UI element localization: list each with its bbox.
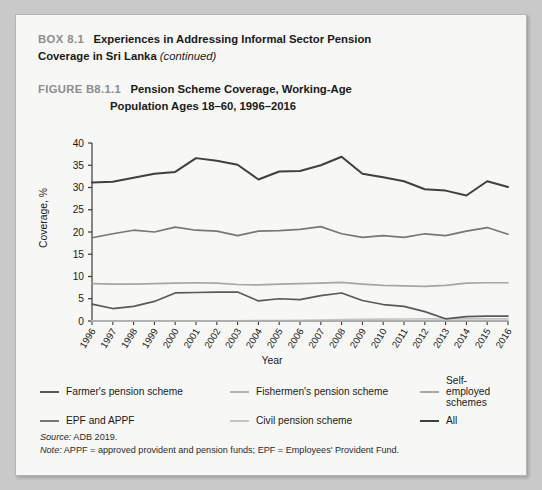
screenshot-page: BOX 8.1 Experiences in Addressing Inform… [0, 0, 542, 490]
legend-item-civil-pension-scheme: Civil pension scheme [230, 415, 420, 426]
figure-title-line1: Pension Scheme Coverage, Working-Age [130, 83, 351, 95]
legend-line-swatch-icon [230, 420, 249, 422]
x-axis-tick-label: 2003 [223, 326, 244, 350]
x-axis-tick-label: 1996 [77, 326, 98, 350]
x-axis-label: Year [26, 355, 518, 366]
series-line-self-employed-schemes [92, 282, 508, 286]
x-axis-tick-label: 2005 [264, 326, 285, 350]
legend-item-epf-and-appf: EPF and APPF [40, 415, 230, 426]
definition-note: Note: APPF = approved provident and pens… [40, 444, 500, 457]
box-heading: BOX 8.1 Experiences in Addressing Inform… [38, 31, 490, 64]
x-axis-tick-label: 2006 [285, 326, 306, 350]
x-axis-tick-label: 2011 [389, 326, 409, 349]
x-axis-tick-label: 1997 [98, 326, 119, 350]
x-axis-tick-label: 2000 [160, 326, 181, 350]
x-axis-tick-label: 2016 [493, 326, 514, 350]
y-axis-tick-label: 30 [73, 182, 85, 193]
x-axis-tick-label: 2015 [472, 326, 493, 350]
note-text: APPF = approved provident and pension fu… [62, 445, 399, 455]
legend-label: Civil pension scheme [256, 415, 352, 426]
legend-item-farmers-pension-scheme: Farmer's pension scheme [40, 375, 230, 408]
x-axis-tick-label: 2013 [431, 326, 452, 350]
legend-line-swatch-icon [420, 391, 439, 393]
x-axis-tick-label: 2008 [327, 326, 348, 350]
legend-label: Farmer's pension scheme [66, 386, 183, 397]
x-axis-tick-label: 2001 [181, 326, 202, 350]
source-note: Source: ADB 2019. [40, 431, 500, 444]
legend-label: EPF and APPF [66, 415, 135, 426]
x-axis-tick-label: 2014 [451, 326, 472, 350]
y-axis-tick-label: 20 [73, 227, 85, 238]
chart-container: Coverage, % 0510152025303540199619971998… [26, 123, 518, 368]
x-axis-tick-label: 2007 [306, 326, 327, 350]
legend-label: All [446, 415, 457, 426]
series-line-all [92, 157, 508, 196]
x-axis-tick-label: 2004 [243, 326, 264, 350]
figure-number: FIGURE B8.1.1 [38, 83, 121, 95]
box-panel: BOX 8.1 Experiences in Addressing Inform… [15, 14, 527, 476]
box-continued-marker: (continued) [160, 50, 217, 62]
box-title-line2: Coverage in Sri Lanka [38, 50, 157, 62]
series-line-farmer-s-pension-scheme [92, 292, 508, 319]
legend-line-swatch-icon [40, 420, 59, 422]
legend-item-fishermens-pension-scheme: Fishermen's pension scheme [230, 375, 420, 408]
chart-legend: Farmer's pension scheme Fishermen's pens… [40, 375, 510, 433]
series-line-epf-and-appf [92, 227, 508, 238]
figure-title-line2: Population Ages 18–60, 1996–2016 [38, 98, 498, 115]
source-label: Source: [40, 432, 71, 442]
figure-heading: FIGURE B8.1.1 Pension Scheme Coverage, W… [38, 81, 498, 114]
legend-line-swatch-icon [40, 391, 59, 393]
x-axis-tick-label: 2012 [410, 326, 431, 350]
x-axis-tick-label: 1999 [139, 326, 160, 350]
box-title-line1: Experiences in Addressing Informal Secto… [94, 33, 372, 45]
x-axis-tick-label: 1998 [119, 326, 140, 350]
y-axis-tick-label: 10 [73, 271, 85, 282]
legend-line-swatch-icon [230, 391, 249, 393]
y-axis-tick-label: 25 [73, 204, 85, 215]
y-axis-tick-label: 0 [78, 316, 84, 327]
line-chart-plot: 0510152025303540199619971998199920002001… [26, 123, 518, 355]
box-number: BOX 8.1 [38, 33, 84, 45]
y-axis-tick-label: 40 [73, 138, 85, 149]
source-text: ADB 2019. [71, 432, 117, 442]
x-axis-tick-label: 2002 [202, 326, 223, 350]
x-axis-tick-label: 2010 [368, 326, 389, 350]
legend-label: Self-employed schemes [446, 375, 510, 408]
legend-line-swatch-icon [420, 420, 439, 422]
y-axis-tick-label: 15 [73, 249, 85, 260]
legend-row-1: Farmer's pension scheme Fishermen's pens… [40, 375, 510, 408]
y-axis-tick-label: 35 [73, 160, 85, 171]
legend-row-2: EPF and APPF Civil pension scheme All [40, 415, 510, 426]
x-axis-tick-label: 2009 [347, 326, 368, 350]
note-label: Note: [40, 445, 62, 455]
legend-item-all: All [420, 415, 510, 426]
y-axis-tick-label: 5 [78, 293, 84, 304]
legend-label: Fishermen's pension scheme [256, 386, 388, 397]
legend-item-self-employed-schemes: Self-employed schemes [420, 375, 510, 408]
figure-notes: Source: ADB 2019. Note: APPF = approved … [40, 431, 500, 457]
